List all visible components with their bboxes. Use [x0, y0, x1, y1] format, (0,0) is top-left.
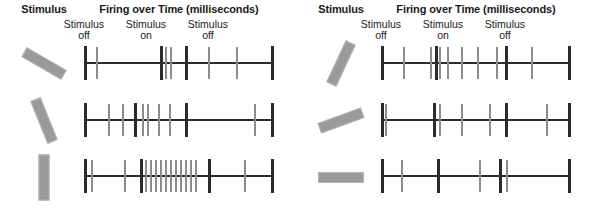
stimulus-bar-cell-1 — [305, 38, 377, 88]
state-label-line2: on — [414, 30, 472, 41]
time-axis-marker — [505, 46, 508, 80]
stimulus-bar-cell-2 — [305, 95, 377, 145]
time-axis-marker — [84, 159, 87, 193]
raster-row-1 — [381, 46, 571, 80]
spike-tick — [506, 160, 508, 192]
time-axis-marker — [140, 159, 143, 193]
stimulus-bar-icon — [318, 172, 364, 183]
spike-tick — [195, 160, 197, 192]
right-panel: StimulusFiring over Time (milliseconds)S… — [297, 0, 594, 210]
spike-tick — [546, 104, 548, 136]
time-axis-marker — [271, 46, 274, 80]
time-axis-line — [84, 119, 274, 121]
stimulus-bar-cell-2 — [8, 95, 80, 145]
time-axis-marker — [381, 103, 384, 137]
spike-tick — [175, 160, 177, 192]
stimulus-bar-cell-3 — [8, 152, 80, 202]
spike-tick — [145, 160, 147, 192]
stimulus-bar-icon — [30, 97, 57, 144]
spike-tick — [170, 47, 172, 79]
spike-tick — [447, 47, 449, 79]
spike-tick — [180, 160, 182, 192]
stimulus-state-label-2: Stimuluson — [414, 19, 472, 41]
spike-tick — [122, 104, 124, 136]
stimulus-bar-icon — [326, 40, 355, 86]
time-axis-marker — [381, 46, 384, 80]
spike-tick — [124, 160, 126, 192]
state-label-line2: off — [476, 30, 534, 41]
stimulus-state-label-3: Stimulusoff — [476, 19, 534, 41]
time-axis-marker — [208, 159, 211, 193]
time-axis-marker — [185, 46, 188, 80]
spike-tick — [158, 104, 160, 136]
time-axis-line — [381, 62, 571, 64]
spike-tick — [461, 47, 463, 79]
spike-tick — [91, 160, 93, 192]
spike-tick — [403, 47, 405, 79]
firing-column-heading: Firing over Time (milliseconds) — [381, 3, 571, 15]
firing-rate-figure: StimulusFiring over Time (milliseconds)S… — [0, 0, 594, 210]
stimulus-state-label-3: Stimulusoff — [179, 19, 237, 41]
spike-tick — [150, 160, 152, 192]
spike-tick — [108, 104, 110, 136]
spike-tick — [244, 160, 246, 192]
spike-tick — [169, 104, 171, 136]
stimulus-bar-cell-1 — [8, 38, 80, 88]
time-axis-marker — [437, 159, 440, 193]
raster-row-3 — [84, 159, 274, 193]
raster-row-2 — [381, 103, 571, 137]
time-axis-marker — [134, 103, 137, 137]
time-axis-marker — [271, 159, 274, 193]
spike-tick — [496, 47, 498, 79]
spike-tick — [254, 104, 256, 136]
spike-tick — [477, 47, 479, 79]
raster-row-3 — [381, 159, 571, 193]
stimulus-bar-icon — [318, 107, 365, 133]
time-axis-line — [84, 62, 274, 64]
spike-tick — [439, 104, 441, 136]
time-axis-marker — [381, 159, 384, 193]
time-axis-marker — [160, 46, 163, 80]
spike-tick — [165, 160, 167, 192]
spike-tick — [385, 104, 387, 136]
stimulus-bar-cell-3 — [305, 152, 377, 202]
spike-tick — [461, 104, 463, 136]
time-axis-marker — [499, 159, 502, 193]
time-axis-marker — [84, 103, 87, 137]
time-axis-marker — [84, 46, 87, 80]
state-label-line2: off — [179, 30, 237, 41]
spike-tick — [401, 160, 403, 192]
raster-row-2 — [84, 103, 274, 137]
spike-tick — [147, 104, 149, 136]
spike-tick — [96, 47, 98, 79]
time-axis-marker — [568, 159, 571, 193]
time-axis-marker — [505, 103, 508, 137]
spike-tick — [430, 47, 432, 79]
spike-tick — [160, 160, 162, 192]
raster-row-1 — [84, 46, 274, 80]
spike-tick — [479, 160, 481, 192]
stimulus-state-label-2: Stimuluson — [117, 19, 175, 41]
stimulus-column-heading: Stimulus — [305, 3, 377, 15]
time-axis-line — [381, 119, 571, 121]
spike-tick — [170, 160, 172, 192]
time-axis-marker — [435, 46, 438, 80]
time-axis-marker — [568, 103, 571, 137]
left-panel: StimulusFiring over Time (milliseconds)S… — [0, 0, 297, 210]
spike-tick — [208, 47, 210, 79]
state-label-line2: on — [117, 30, 175, 41]
stimulus-column-heading: Stimulus — [8, 3, 80, 15]
spike-tick — [439, 47, 441, 79]
spike-tick — [165, 47, 167, 79]
time-axis-marker — [433, 103, 436, 137]
spike-tick — [489, 104, 491, 136]
time-axis-marker — [185, 103, 188, 137]
time-axis-marker — [271, 103, 274, 137]
spike-tick — [531, 47, 533, 79]
spike-tick — [155, 160, 157, 192]
time-axis-line — [381, 175, 571, 177]
spike-tick — [142, 104, 144, 136]
stimulus-bar-icon — [39, 154, 50, 200]
spike-tick — [185, 160, 187, 192]
spike-tick — [236, 47, 238, 79]
